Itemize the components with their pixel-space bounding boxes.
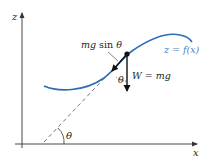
- x-axis-label: x: [193, 147, 199, 158]
- weight-label-mg: mg: [156, 70, 171, 81]
- tangent-line: [44, 70, 112, 142]
- diagram-canvas: z x θ mg sin θ θ W = mg z = f(x): [0, 0, 220, 167]
- weight-label: W = mg: [132, 70, 171, 81]
- tangential-force-vector: [112, 54, 127, 71]
- z-axis-label: z: [11, 11, 18, 22]
- tangential-label-mg: mg: [81, 39, 96, 50]
- particle-dot: [124, 51, 129, 56]
- tangential-label-sin: sin: [96, 39, 116, 50]
- base-angle-label: θ: [66, 130, 72, 141]
- tangential-label-theta: θ: [116, 39, 122, 50]
- base-angle-arc: [58, 128, 64, 144]
- weight-label-equals: =: [142, 70, 156, 81]
- tangential-force-label: mg sin θ: [81, 39, 122, 50]
- label-leader-line: [108, 52, 118, 61]
- curve-label: z = f(x): [163, 44, 200, 55]
- force-angle-label: θ: [118, 74, 124, 85]
